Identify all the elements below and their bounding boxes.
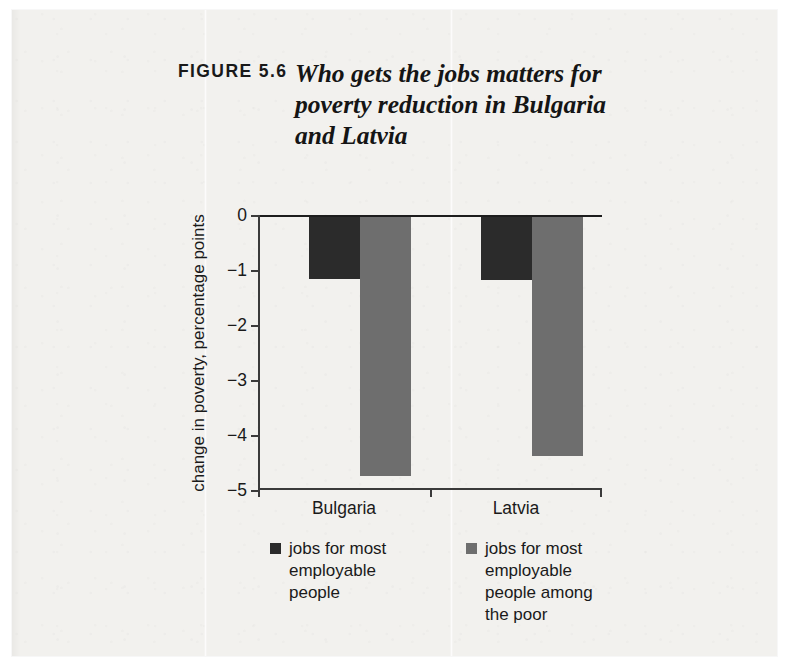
y-tick-mark — [251, 325, 258, 327]
x-tick-mark — [258, 490, 260, 497]
y-tick-mark — [251, 490, 258, 492]
y-tick-label: 0 — [237, 205, 247, 226]
y-tick-mark — [251, 270, 258, 272]
y-tick-label: −4 — [227, 425, 247, 446]
y-tick-label: −2 — [227, 315, 247, 336]
legend-swatch-icon — [466, 543, 477, 554]
scanned-page: FIGURE 5.6 Who gets the jobs matters for… — [12, 10, 777, 656]
bar — [309, 217, 360, 279]
y-axis-title: change in poverty, percentage points — [188, 215, 210, 490]
y-tick-mark — [251, 215, 258, 217]
bar — [360, 217, 411, 476]
y-tick-label: −3 — [227, 370, 247, 391]
y-tick-mark — [251, 435, 258, 437]
y-axis-line — [258, 215, 260, 490]
x-tick-mark — [600, 490, 602, 497]
y-axis-title-text: change in poverty, percentage points — [189, 214, 209, 492]
legend-swatch-icon — [270, 543, 281, 554]
bar — [481, 217, 532, 280]
x-tick-mark — [430, 490, 432, 497]
legend-item[interactable]: jobs for most employable people among th… — [466, 538, 614, 626]
bar-chart: change in poverty, percentage points 0−1… — [12, 10, 777, 656]
y-tick-label: −5 — [227, 480, 247, 501]
legend-label: jobs for most employable people — [289, 538, 418, 604]
plot-area: 0−1−2−3−4−5 BulgariaLatvia — [258, 215, 602, 490]
x-category-label: Latvia — [430, 498, 602, 519]
y-tick-mark — [251, 380, 258, 382]
legend-label: jobs for most employable people among th… — [485, 538, 614, 626]
legend-item[interactable]: jobs for most employable people — [270, 538, 418, 626]
bar — [532, 217, 583, 456]
y-tick-label: −1 — [227, 260, 247, 281]
x-category-label: Bulgaria — [258, 498, 430, 519]
chart-legend: jobs for most employable peoplejobs for … — [270, 538, 670, 626]
